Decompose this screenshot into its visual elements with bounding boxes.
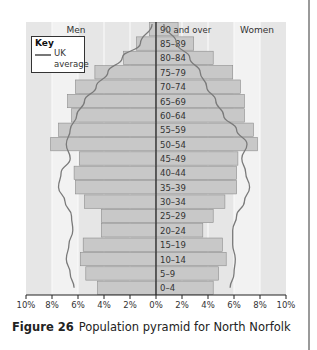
age-group-label: 50–54: [160, 140, 186, 150]
bar-men: [124, 51, 157, 64]
age-group-label: 55–59: [160, 125, 186, 135]
x-tick-label: 2%: [175, 300, 189, 310]
age-group-label: 5–9: [160, 269, 175, 279]
age-group-label: 85–89: [160, 39, 186, 49]
bar-men: [83, 238, 156, 251]
uk-average-line-icon: [35, 54, 51, 56]
legend-label-average: average: [54, 59, 89, 69]
bar-men: [98, 281, 157, 294]
bar-men: [86, 267, 156, 280]
x-tick-label: 8%: [45, 300, 59, 310]
x-tick-label: 4%: [201, 300, 215, 310]
x-tick-label: 6%: [71, 300, 85, 310]
bar-men: [79, 152, 156, 165]
legend-key: Key UK average: [31, 36, 85, 73]
age-group-label: 70–74: [160, 82, 186, 92]
age-group-label: 30–34: [160, 197, 186, 207]
x-tick-label: 10%: [17, 300, 36, 310]
bar-men: [59, 123, 157, 136]
age-group-label: 20–24: [160, 226, 186, 236]
x-tick-label: 8%: [253, 300, 267, 310]
men-label: Men: [66, 25, 85, 35]
x-tick-label: 2%: [123, 300, 137, 310]
bar-men: [137, 37, 157, 50]
age-group-label: 60–64: [160, 111, 186, 121]
age-group-label: 10–14: [160, 255, 186, 265]
age-group-label: 75–79: [160, 68, 186, 78]
figure-caption-text: Population pyramid for North Norfolk: [79, 320, 291, 334]
bar-men: [95, 66, 156, 79]
x-tick-label: 10%: [277, 300, 296, 310]
age-group-label: 45–49: [160, 154, 186, 164]
bar-men: [81, 252, 156, 265]
bar-men: [85, 195, 157, 208]
women-label: Women: [240, 25, 274, 35]
bar-men: [74, 166, 156, 179]
age-group-label: 40–44: [160, 168, 186, 178]
age-group-label: 90 and over: [160, 25, 212, 35]
age-group-label: 25–29: [160, 211, 186, 221]
bar-men: [75, 181, 156, 194]
age-group-label: 0–4: [160, 283, 175, 293]
bar-men: [68, 94, 156, 107]
age-group-label: 65–69: [160, 97, 186, 107]
bar-men: [101, 209, 156, 222]
bar-men: [72, 109, 157, 122]
bar-men: [101, 224, 156, 237]
figure-label: Figure 26: [12, 320, 74, 334]
x-tick-label: 0%: [149, 300, 163, 310]
age-group-label: 15–19: [160, 240, 186, 250]
figure-caption: Figure 26Population pyramid for North No…: [12, 320, 291, 334]
legend-title: Key: [35, 38, 54, 48]
age-group-label: 35–39: [160, 183, 186, 193]
legend-label-uk: UK: [54, 48, 66, 58]
age-group-label: 80–84: [160, 53, 186, 63]
x-tick-label: 4%: [97, 300, 111, 310]
page-border-line: [308, 0, 310, 350]
bar-men: [75, 80, 156, 93]
x-tick-label: 6%: [227, 300, 241, 310]
